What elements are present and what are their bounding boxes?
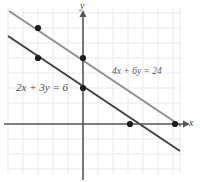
marked-point — [80, 55, 86, 61]
marked-point — [35, 55, 41, 61]
marked-point — [35, 25, 41, 31]
marked-point — [127, 121, 133, 127]
coordinate-plane-figure: 2x + 3y = 6 4x + 6y = 24 y x — [0, 0, 200, 182]
x-axis-label: x — [189, 118, 193, 128]
equation-label-2x-3y-6: 2x + 3y = 6 — [16, 82, 68, 93]
marked-point — [80, 85, 86, 91]
marked-point — [172, 121, 178, 127]
y-axis-label: y — [80, 1, 84, 11]
equation-label-4x-6y-24: 4x + 6y = 24 — [112, 67, 162, 77]
